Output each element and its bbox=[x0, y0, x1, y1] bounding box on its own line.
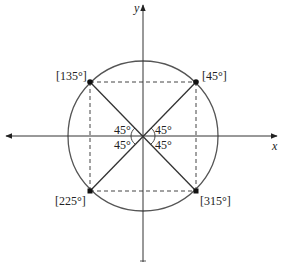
ref-angle-q2: 45° bbox=[114, 123, 131, 137]
y-axis-label: y bbox=[133, 1, 140, 15]
point-label-45: [45°] bbox=[202, 69, 227, 83]
ref-angle-q4: 45° bbox=[155, 138, 172, 152]
point-225 bbox=[88, 189, 93, 194]
point-135 bbox=[87, 79, 93, 85]
unit-circle-diagram: y x [45°] [135°] [225°] [315°] 45° 45° 4… bbox=[0, 0, 282, 263]
point-label-315: [315°] bbox=[200, 194, 231, 208]
point-45 bbox=[193, 79, 199, 85]
point-label-135: [135°] bbox=[56, 69, 87, 83]
point-315 bbox=[194, 189, 199, 194]
point-label-225: [225°] bbox=[55, 194, 86, 208]
ref-angle-q1: 45° bbox=[155, 123, 172, 137]
x-axis-label: x bbox=[271, 139, 278, 153]
ref-angle-q3: 45° bbox=[114, 138, 131, 152]
